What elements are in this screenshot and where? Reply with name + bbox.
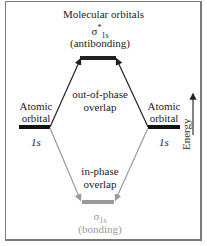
out-of-phase-line2: overlap [55,101,145,113]
left-atomic-line1: Atomic [14,100,58,112]
in-phase-line1: in-phase [60,165,140,177]
left-atomic-orbital: 1s [24,136,48,148]
bonding-label: (bonding) [50,223,150,235]
energy-axis-label: Energy [180,118,192,150]
left-atomic-line2: orbital [14,112,58,124]
right-atomic-orbital: 1s [152,136,176,148]
antibonding-label: (antibonding) [50,37,150,49]
diagram-title: Molecular orbitals [0,8,207,20]
right-atomic-line1: Atomic [142,100,186,112]
in-phase-line2: overlap [60,178,140,190]
out-of-phase-line1: out-of-phase [55,88,145,100]
